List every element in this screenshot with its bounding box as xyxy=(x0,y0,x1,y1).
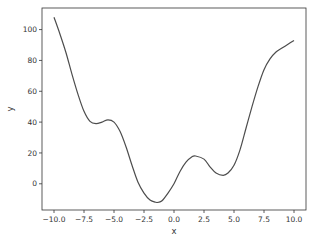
y-tick-label: 0 xyxy=(32,179,37,188)
y-tick-label: 40 xyxy=(27,118,37,127)
y-tick-label: 60 xyxy=(27,87,37,96)
x-axis-ticks: −10.0−7.5−5.0−2.50.02.55.07.510.0 xyxy=(43,210,303,224)
x-tick-label: −5.0 xyxy=(105,215,123,224)
x-tick-label: 0.0 xyxy=(168,215,180,224)
y-tick-label: 20 xyxy=(27,149,37,158)
y-axis-label: y xyxy=(5,106,15,111)
x-tick-label: −10.0 xyxy=(43,215,66,224)
y-axis-ticks: 020406080100 xyxy=(23,25,42,188)
x-tick-label: 5.0 xyxy=(228,215,240,224)
y-tick-label: 100 xyxy=(23,25,38,34)
line-chart: −10.0−7.5−5.0−2.50.02.55.07.510.0 020406… xyxy=(0,0,318,246)
x-axis-label: x xyxy=(171,226,176,236)
x-tick-label: −7.5 xyxy=(75,215,93,224)
y-tick-label: 80 xyxy=(27,56,37,65)
x-tick-label: 7.5 xyxy=(258,215,270,224)
x-tick-label: −2.5 xyxy=(135,215,153,224)
plot-background xyxy=(42,8,306,210)
x-tick-label: 2.5 xyxy=(198,215,210,224)
x-tick-label: 10.0 xyxy=(286,215,303,224)
